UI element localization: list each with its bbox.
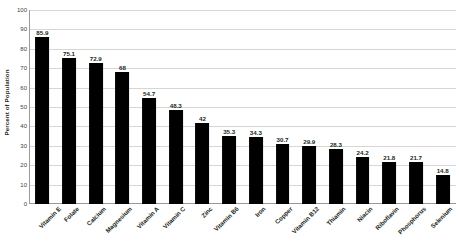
bar-value-label: 21.7	[410, 154, 422, 161]
y-tick-label: 50	[20, 104, 27, 110]
bar[interactable]	[89, 63, 103, 204]
bar-group[interactable]: 42	[189, 10, 216, 204]
bar[interactable]	[409, 162, 423, 204]
y-tick-label: 90	[20, 26, 27, 32]
bar[interactable]	[329, 149, 343, 204]
bar-value-label: 24.2	[357, 149, 369, 156]
bar-group[interactable]: 21.7	[403, 10, 430, 204]
bar-group[interactable]: 54.7	[136, 10, 163, 204]
bar-value-label: 28.3	[330, 141, 342, 148]
x-axis-label: Selenium	[29, 205, 449, 212]
bar[interactable]	[302, 146, 316, 204]
bar-value-label: 54.7	[143, 90, 155, 97]
bar-value-label: 48.3	[170, 102, 182, 109]
bar[interactable]	[249, 137, 263, 204]
bar-value-label: 72.9	[90, 55, 102, 62]
bar[interactable]	[276, 144, 290, 204]
bar-value-label: 75.1	[63, 50, 75, 57]
bar-group[interactable]: 29.9	[296, 10, 323, 204]
bar[interactable]	[142, 98, 156, 204]
bar[interactable]	[436, 175, 450, 204]
bar-group[interactable]: 72.9	[82, 10, 109, 204]
bar-group[interactable]: 30.7	[269, 10, 296, 204]
x-axis-label-text: Selenium	[429, 205, 453, 229]
bar-value-label: 21.8	[383, 154, 395, 161]
bar-value-label: 14.8	[437, 167, 449, 174]
y-tick-label: 0	[24, 201, 27, 207]
bar-chart: Percent of Population 100908070605040302…	[0, 0, 459, 251]
bar-group[interactable]: 24.2	[349, 10, 376, 204]
bar[interactable]	[356, 157, 370, 204]
y-tick-label: 80	[20, 46, 27, 52]
y-axis-tick-labels: 1009080706050403020100	[10, 0, 28, 204]
y-tick-label: 20	[20, 162, 27, 168]
bar[interactable]	[115, 72, 129, 204]
bar-group[interactable]: 28.3	[323, 10, 350, 204]
bar-group[interactable]: 75.1	[56, 10, 83, 204]
x-axis-category-labels: Vitamin EFolateCalciumMagnesiumVitamin A…	[29, 205, 456, 251]
bar-group[interactable]: 35.3	[216, 10, 243, 204]
plot-area: 85.975.172.96854.748.34235.334.330.729.9…	[29, 10, 456, 204]
bar-value-label: 34.3	[250, 129, 262, 136]
bar-value-label: 29.9	[303, 138, 315, 145]
bar[interactable]	[169, 110, 183, 204]
y-tick-label: 100	[17, 7, 27, 13]
bar-value-label: 68	[119, 64, 126, 71]
bar-group[interactable]: 14.8	[429, 10, 456, 204]
y-tick-label: 40	[20, 123, 27, 129]
y-axis-title-text: Percent of Population	[3, 69, 10, 135]
bar-group[interactable]: 85.9	[29, 10, 56, 204]
bar[interactable]	[382, 162, 396, 204]
bar-group[interactable]: 34.3	[243, 10, 270, 204]
bar-value-label: 85.9	[36, 29, 48, 36]
bar[interactable]	[222, 136, 236, 204]
bar-value-label: 42	[199, 115, 206, 122]
bars-layer: 85.975.172.96854.748.34235.334.330.729.9…	[29, 10, 456, 204]
y-tick-label: 30	[20, 143, 27, 149]
bar-value-label: 30.7	[277, 136, 289, 143]
bar-group[interactable]: 68	[109, 10, 136, 204]
y-tick-label: 70	[20, 65, 27, 71]
bar[interactable]	[62, 58, 76, 204]
y-tick-label: 10	[20, 182, 27, 188]
bar-group[interactable]: 21.8	[376, 10, 403, 204]
bar-value-label: 35.3	[223, 128, 235, 135]
y-tick-label: 60	[20, 85, 27, 91]
bar[interactable]	[35, 37, 49, 204]
bar-group[interactable]: 48.3	[162, 10, 189, 204]
bar[interactable]	[196, 123, 210, 204]
